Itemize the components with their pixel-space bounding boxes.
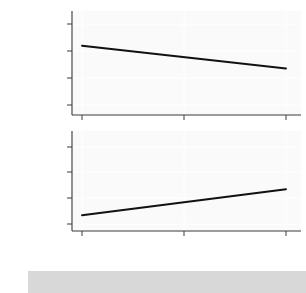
figure-panel-b	[0, 0, 306, 293]
panel-d-content-strip	[28, 271, 306, 293]
plot-background-bottom	[72, 131, 301, 231]
scatter-plot-bottom	[0, 0, 306, 255]
